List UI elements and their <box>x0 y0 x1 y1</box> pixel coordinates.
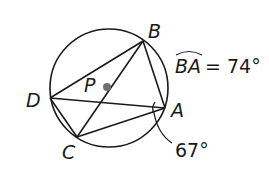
arc-measure-annotation: BA = 74° <box>175 52 261 78</box>
geometry-diagram: B A C D P BA = 74° 67° <box>0 0 269 177</box>
arc-name: BA <box>175 55 201 77</box>
arc-value: = 74° <box>205 55 261 77</box>
label-P: P <box>84 74 96 96</box>
segment-CD <box>50 98 77 137</box>
label-A: A <box>169 99 184 121</box>
label-B: B <box>148 20 161 42</box>
angle-value-label: 67° <box>175 139 209 161</box>
label-C: C <box>62 141 76 163</box>
angle-leader-curve <box>154 113 172 143</box>
segment-AC <box>77 108 165 137</box>
segment-DA <box>50 98 165 108</box>
label-D: D <box>26 89 41 111</box>
center-point-P <box>103 83 111 91</box>
